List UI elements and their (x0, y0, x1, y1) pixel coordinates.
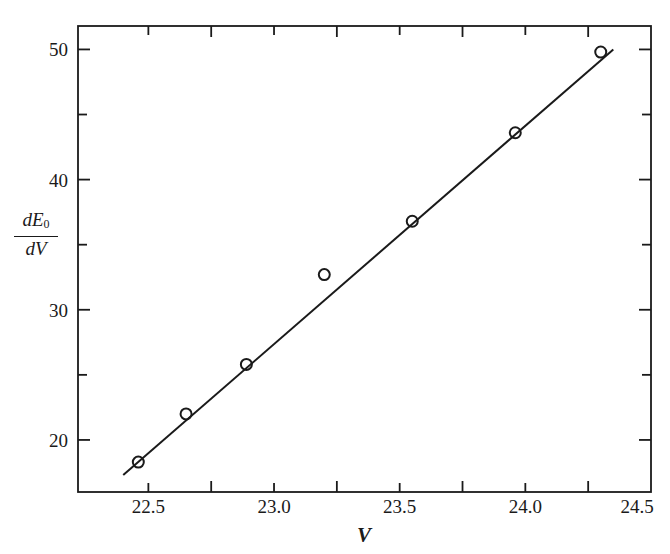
x-tick-labels: 22.523.023.524.024.5 (132, 496, 654, 517)
x-tick-label: 22.5 (132, 496, 165, 517)
x-tick-label: 23.5 (383, 496, 416, 517)
y-tick-label: 50 (49, 39, 68, 60)
y-tick-label: 30 (49, 300, 68, 321)
data-point-circle (181, 408, 192, 419)
axis-ticks (78, 26, 651, 492)
data-point-circle (595, 47, 606, 58)
y-axis-title-numerator: dE0 (14, 209, 58, 237)
x-tick-label: 24.5 (620, 496, 653, 517)
y-tick-label: 20 (49, 430, 68, 451)
plot-frame (78, 26, 651, 492)
fit-line (123, 49, 613, 475)
scatter-chart: 22.523.023.524.024.5 20304050 V (0, 0, 670, 554)
x-tick-label: 24.0 (509, 496, 542, 517)
y-axis-title-denominator: dV (14, 237, 58, 260)
y-axis-title: dE0 dV (14, 209, 58, 260)
x-tick-label: 23.0 (257, 496, 290, 517)
y-tick-label: 40 (49, 170, 68, 191)
data-point-circle (319, 269, 330, 280)
data-point-circle (510, 127, 521, 138)
x-axis-title: V (357, 523, 373, 547)
